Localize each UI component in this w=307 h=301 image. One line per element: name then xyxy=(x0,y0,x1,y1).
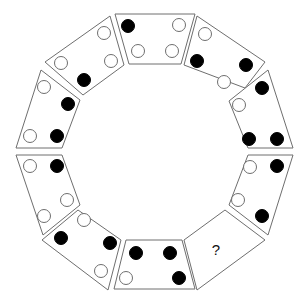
white-dot-icon xyxy=(233,99,246,112)
black-dot-icon xyxy=(164,247,177,260)
black-dot-icon xyxy=(51,160,64,173)
white-dot-icon xyxy=(173,19,186,32)
panel-top xyxy=(115,14,195,64)
white-dot-icon xyxy=(132,45,145,58)
white-dot-icon xyxy=(61,194,74,207)
panel-top-right xyxy=(184,16,265,89)
white-dot-icon xyxy=(78,214,91,227)
black-dot-icon xyxy=(104,237,117,250)
white-dot-icon xyxy=(244,161,257,174)
black-dot-icon xyxy=(191,55,204,68)
white-dot-icon xyxy=(38,81,51,94)
dot-pattern-ring-diagram: ? xyxy=(0,0,307,301)
white-dot-icon xyxy=(98,27,111,40)
black-dot-icon xyxy=(173,272,186,285)
panel-bottom xyxy=(114,240,195,289)
white-dot-icon xyxy=(218,76,231,89)
black-dot-icon xyxy=(256,82,269,95)
white-dot-icon xyxy=(24,130,37,143)
black-dot-icon xyxy=(243,133,256,146)
white-dot-icon xyxy=(232,194,245,207)
white-dot-icon xyxy=(105,55,118,68)
black-dot-icon xyxy=(62,98,75,111)
black-dot-icon xyxy=(256,210,269,223)
white-dot-icon xyxy=(95,265,108,278)
black-dot-icon xyxy=(240,59,253,72)
black-dot-icon xyxy=(271,133,284,146)
black-dot-icon xyxy=(51,130,64,143)
white-dot-icon xyxy=(120,272,133,285)
question-mark: ? xyxy=(212,241,220,258)
white-dot-icon xyxy=(199,28,212,41)
white-dot-icon xyxy=(38,210,51,223)
white-dot-icon xyxy=(166,45,179,58)
white-dot-icon xyxy=(24,160,37,173)
black-dot-icon xyxy=(55,232,68,245)
black-dot-icon xyxy=(78,74,91,87)
black-dot-icon xyxy=(271,160,284,173)
black-dot-icon xyxy=(130,247,143,260)
black-dot-icon xyxy=(122,20,135,33)
white-dot-icon xyxy=(55,57,68,70)
